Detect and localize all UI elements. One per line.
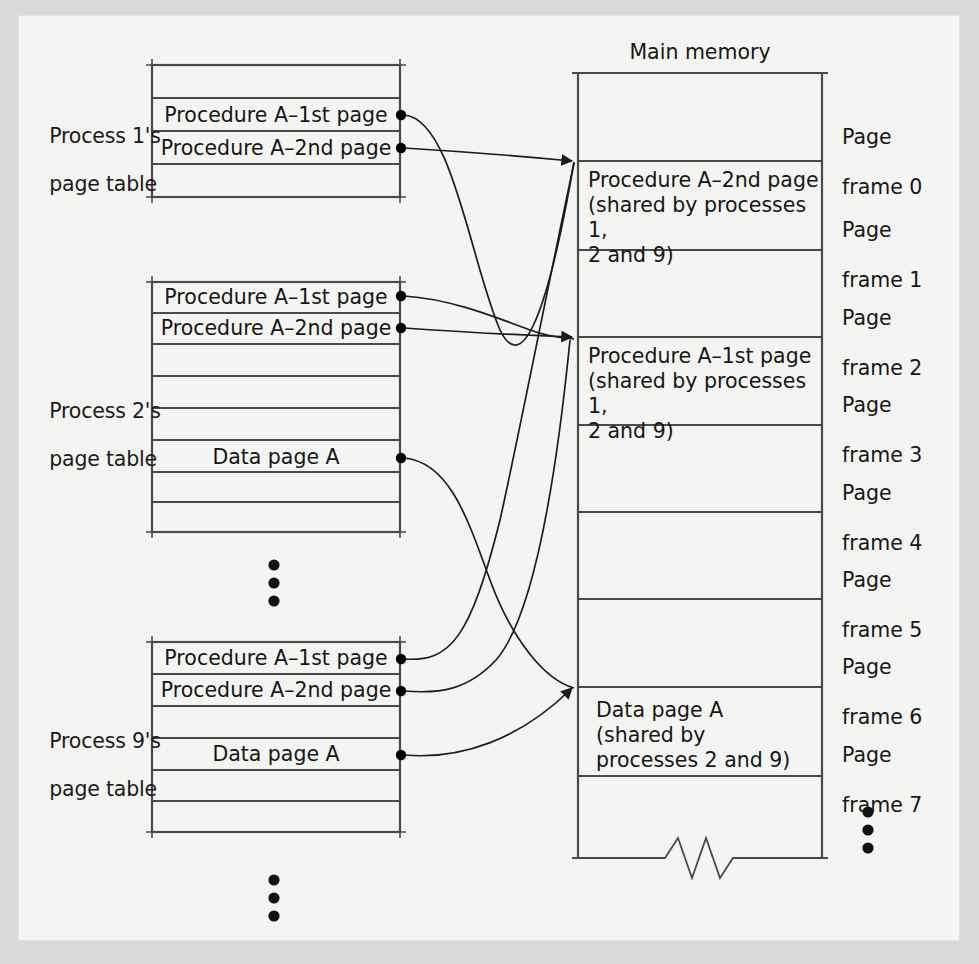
- page-frame-label-line1: Page: [842, 306, 892, 330]
- page-frame-label-line1: Page: [842, 568, 892, 592]
- page-table-row[interactable]: Procedure A–1st page: [158, 104, 394, 126]
- page-table-1-label: Process 1's page table: [24, 100, 136, 220]
- diagram-stage: Main memory Process 1's page table Proce…: [0, 0, 979, 964]
- page-frame-label-line1: Page: [842, 655, 892, 679]
- page-table-2-label: Process 2's page table: [24, 375, 136, 495]
- page-table-row[interactable]: Procedure A–2nd page: [158, 317, 394, 339]
- page-table-row[interactable]: Data page A: [158, 446, 394, 468]
- page-table-row[interactable]: Procedure A–1st page: [158, 286, 394, 308]
- page-table-1-label-line1: Process 1's: [49, 124, 160, 148]
- page-table-1-grid: [146, 59, 406, 203]
- page-frame-label: Page frame 0: [842, 100, 962, 200]
- page-frame-label: Page frame 2: [842, 281, 962, 381]
- page-frame-label-line1: Page: [842, 393, 892, 417]
- page-table-row[interactable]: Procedure A–2nd page: [158, 137, 394, 159]
- page-table-2-label-line2: page table: [49, 447, 157, 471]
- page-frame-label: Page frame 1: [842, 193, 962, 293]
- page-frame-label: Page frame 3: [842, 368, 962, 468]
- page-frame-label-line2: frame 7: [842, 793, 922, 817]
- zigzag-break: [572, 838, 828, 878]
- main-memory-title: Main memory: [578, 40, 822, 64]
- page-frame-label-line1: Page: [842, 481, 892, 505]
- memory-frame-content[interactable]: Procedure A–2nd page (shared by processe…: [588, 168, 820, 268]
- page-table-9-label-line2: page table: [49, 777, 157, 801]
- page-frame-label-line1: Page: [842, 743, 892, 767]
- page-table-row[interactable]: Data page A: [158, 743, 394, 765]
- page-frame-label: Page frame 7: [842, 718, 962, 818]
- memory-frame-content[interactable]: Procedure A–1st page (shared by processe…: [588, 344, 820, 444]
- page-table-1-label-line2: page table: [49, 172, 157, 196]
- page-frame-label: Page frame 5: [842, 543, 962, 643]
- page-table-row[interactable]: Procedure A–1st page: [158, 647, 394, 669]
- page-frame-label-line1: Page: [842, 218, 892, 242]
- page-frame-label: Page frame 6: [842, 630, 962, 730]
- mapping-arrows: [404, 115, 574, 756]
- page-table-9-label-line1: Process 9's: [49, 729, 160, 753]
- memory-frame-content[interactable]: Data page A (shared by processes 2 and 9…: [596, 698, 820, 773]
- page-table-2-label-line1: Process 2's: [49, 399, 160, 423]
- page-frame-label-line1: Page: [842, 125, 892, 149]
- page-table-row[interactable]: Procedure A–2nd page: [158, 679, 394, 701]
- page-frame-label: Page frame 4: [842, 456, 962, 556]
- page-table-9-label: Process 9's page table: [24, 705, 136, 825]
